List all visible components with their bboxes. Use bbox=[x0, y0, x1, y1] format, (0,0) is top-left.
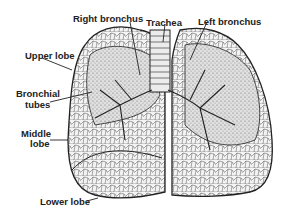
label-left-bronchus: Left bronchus bbox=[198, 16, 261, 27]
trachea-shape bbox=[150, 30, 170, 92]
label-bronchial-tubes-line1: Bronchial bbox=[16, 88, 60, 99]
label-bronchial-tubes-line2: tubes bbox=[25, 99, 50, 110]
lung-diagram: Right bronchus Trachea Left bronchus Upp… bbox=[0, 0, 286, 220]
label-middle-lobe-line2: lobe bbox=[30, 138, 50, 149]
label-trachea: Trachea bbox=[146, 17, 182, 28]
label-upper-lobe: Upper lobe bbox=[25, 50, 75, 61]
label-right-bronchus: Right bronchus bbox=[73, 13, 143, 24]
label-lower-lobe: Lower lobe bbox=[40, 196, 90, 207]
lung-illustration bbox=[0, 0, 286, 220]
